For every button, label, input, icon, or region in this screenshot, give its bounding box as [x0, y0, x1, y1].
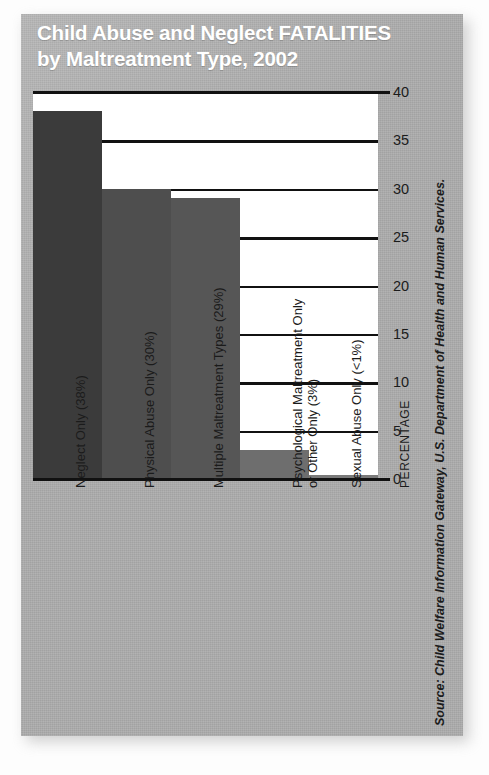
x-label-line-1: Psychological Maltreatment Only: [290, 299, 305, 488]
bar-1: [33, 111, 102, 479]
x-label-line-1: Neglect Only (38%): [73, 375, 88, 488]
x-label-4: Psychological Maltreatment Onlyor Other …: [290, 299, 320, 488]
x-label-2: Physical Abuse Only (30%): [142, 331, 157, 488]
bar-2: [102, 189, 171, 479]
y-tick-30: 30: [393, 181, 409, 197]
y-tick-40: 40: [393, 84, 409, 100]
gridline-top: [33, 91, 390, 94]
y-tick-20: 20: [393, 278, 409, 294]
x-label-line-1: Sexual Abuse Only (<1%): [349, 340, 364, 489]
source-credit: Source: Child Welfare Information Gatewa…: [433, 179, 447, 726]
x-label-5: Sexual Abuse Only (<1%): [349, 340, 364, 489]
chart-card: Child Abuse and Neglect FATALITIES by Ma…: [21, 14, 463, 736]
y-tick-35: 35: [393, 132, 409, 148]
y-tick-10: 10: [393, 374, 409, 390]
chart-title-line-1: Child Abuse and Neglect FATALITIES: [37, 20, 417, 46]
chart-page: Child Abuse and Neglect FATALITIES by Ma…: [0, 0, 489, 775]
y-axis-title: PERCENTAGE: [398, 400, 412, 488]
chart-title-line-2: by Maltreatment Type, 2002: [37, 46, 417, 72]
x-label-1: Neglect Only (38%): [73, 375, 88, 488]
chart-title: Child Abuse and Neglect FATALITIES by Ma…: [37, 20, 417, 72]
x-label-line-1: Multiple Maltreatment Types (29%): [211, 287, 226, 488]
y-tick-25: 25: [393, 229, 409, 245]
x-label-3: Multiple Maltreatment Types (29%): [211, 287, 226, 488]
bar-3: [171, 198, 240, 479]
y-tick-15: 15: [393, 326, 409, 342]
x-label-line-2: or Other Only (3%): [305, 299, 320, 488]
x-label-line-1: Physical Abuse Only (30%): [142, 331, 157, 488]
